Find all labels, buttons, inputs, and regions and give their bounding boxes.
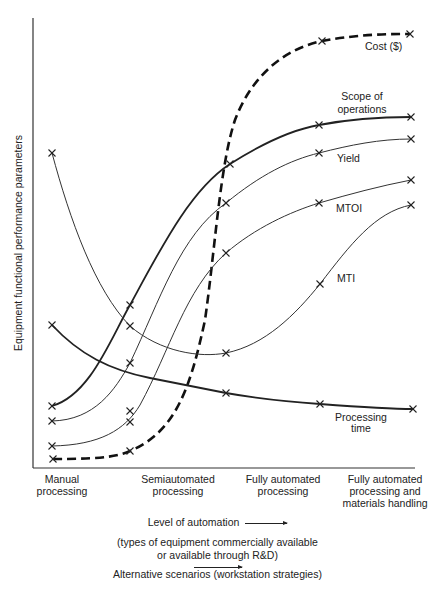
chart-plot-area: Cost ($) Scope of operations Yield MTOI … [0,0,435,604]
label-mtoi: MTOI [336,202,362,214]
label-mti: MTI [337,272,355,284]
series-processing-time [52,325,413,409]
x-category-fully-automated-handling: Fully automatedprocessing andmaterials h… [330,473,435,509]
caption-equipment-types: (types of equipment commercially availab… [0,536,435,562]
label-scope-1: Scope of [341,90,383,102]
label-scope-2: operations [337,103,386,115]
label-yield: Yield [337,152,360,164]
x-axis-label: Level of automation [0,516,435,529]
x-category-manual: Manualprocessing [7,473,117,497]
series-mti [52,153,411,355]
caption-alternatives: Alternative scenarios (workstation strat… [0,568,435,581]
x-category-semiautomated: Semiautomatedprocessing [123,473,233,497]
x-category-fully-automated: Fully automatedprocessing [228,473,338,497]
arrow-right-icon [245,523,287,524]
series-yield [52,139,411,421]
label-cost: Cost ($) [365,40,402,52]
label-processing-2: time [351,422,371,434]
